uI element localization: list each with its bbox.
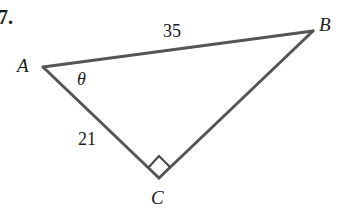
vertex-label-b: B — [319, 14, 331, 35]
side-bc — [159, 31, 313, 178]
vertex-label-a: A — [15, 55, 29, 76]
right-triangle-diagram: 7. A B C 35 21 θ — [0, 0, 345, 213]
right-angle-marker — [148, 156, 170, 168]
vertex-label-c: C — [151, 187, 164, 208]
angle-label-theta: θ — [77, 69, 86, 89]
side-ac — [43, 67, 159, 178]
side-label-ab: 35 — [163, 21, 181, 41]
side-label-ac: 21 — [78, 129, 96, 149]
triangle — [43, 31, 313, 178]
problem-number: 7. — [0, 6, 13, 28]
